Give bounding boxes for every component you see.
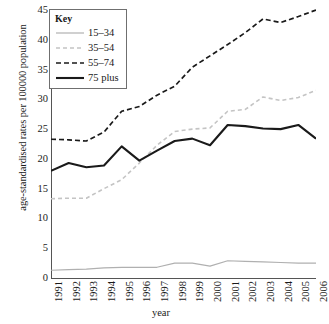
y-axis-tick-labels: 454035302520151050 <box>22 0 48 290</box>
y-tick-label: 10 <box>26 213 48 223</box>
y-tick-label: 35 <box>26 65 48 75</box>
legend-items: 15–3435–5455–7475 plus <box>55 25 122 85</box>
y-tick-label: 25 <box>26 124 48 134</box>
y-tick-label: 15 <box>26 184 48 194</box>
legend-swatch-icon <box>55 28 85 37</box>
legend-title: Key <box>55 13 122 25</box>
series-line-4 <box>51 125 316 171</box>
legend-label: 75 plus <box>85 72 119 83</box>
legend-swatch-icon <box>55 73 85 82</box>
y-tick-label: 45 <box>26 5 48 15</box>
legend: Key 15–3435–5455–7475 plus <box>49 9 127 89</box>
legend-label: 35–54 <box>85 42 114 53</box>
x-axis-title: year <box>0 307 322 318</box>
legend-label: 15–34 <box>85 27 114 38</box>
legend-swatch-icon <box>55 58 85 67</box>
legend-swatch-icon <box>55 43 85 52</box>
legend-item-4: 75 plus <box>55 70 122 85</box>
legend-item-1: 15–34 <box>55 25 122 40</box>
series-line-2 <box>51 90 316 198</box>
legend-item-3: 55–74 <box>55 55 122 70</box>
y-tick-label: 5 <box>26 243 48 253</box>
legend-label: 55–74 <box>85 57 114 68</box>
y-tick-label: 20 <box>26 154 48 164</box>
y-tick-label: 40 <box>26 35 48 45</box>
y-tick-label: 30 <box>26 94 48 104</box>
legend-item-2: 35–54 <box>55 40 122 55</box>
y-tick-label: 0 <box>26 273 48 283</box>
series-line-1 <box>51 261 316 271</box>
